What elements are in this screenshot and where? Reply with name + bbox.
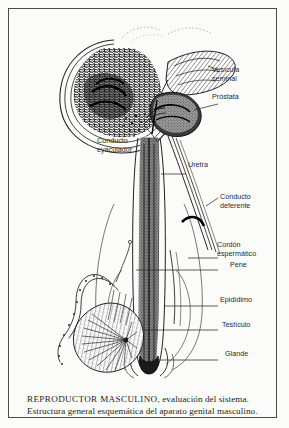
figure-plate: Vesícula seminal Próstata Conducto eyacu…	[0, 0, 289, 428]
label-uretra: Uretra	[188, 161, 208, 170]
label-testiculo: Testículo	[222, 321, 250, 330]
testis-structure	[58, 240, 144, 372]
label-conducto-eyaculador: Conducto eyaculador	[97, 137, 132, 154]
label-conducto-deferente: Conducto deferente	[220, 193, 251, 210]
label-prostata: Próstata	[212, 93, 239, 102]
caption-lead: REPRODUCTOR MASCULINO	[27, 394, 158, 404]
plate-border: Vesícula seminal Próstata Conducto eyacu…	[8, 8, 277, 418]
label-pene: Pene	[230, 261, 247, 270]
figure-caption: REPRODUCTOR MASCULINO, evaluación del si…	[27, 393, 277, 418]
label-vesicula-seminal: Vesícula seminal	[212, 66, 239, 83]
label-cordon-espermatico: Cordón espermático	[217, 241, 256, 258]
label-epididimo: Epidídimo	[220, 296, 252, 305]
label-glande: Glande	[225, 350, 248, 359]
